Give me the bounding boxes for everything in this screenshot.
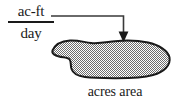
figure-container: ac-ft day acres area: [0, 0, 185, 105]
acres-area-label: acres area: [55, 84, 175, 100]
acres-area-shape: [52, 40, 169, 78]
flow-arrow-line: [51, 16, 124, 33]
